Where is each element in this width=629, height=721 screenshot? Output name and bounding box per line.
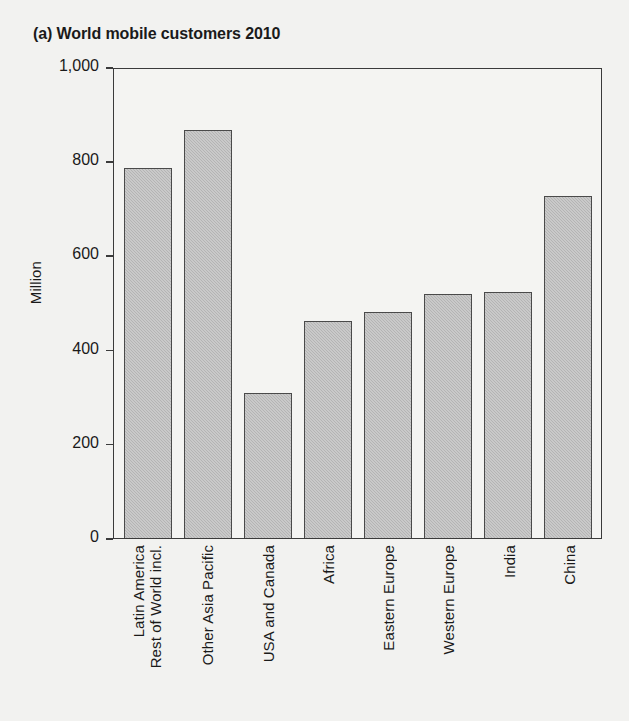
bar[interactable] bbox=[364, 312, 412, 538]
y-axis-tick-label: 200 bbox=[72, 434, 99, 452]
x-axis-tick-label: Other Asia Pacific bbox=[199, 545, 216, 665]
bar[interactable] bbox=[544, 196, 592, 538]
bar[interactable] bbox=[244, 393, 292, 538]
bar-slot bbox=[478, 69, 538, 538]
bar-slot bbox=[358, 69, 418, 538]
bar[interactable] bbox=[424, 294, 472, 538]
bar[interactable] bbox=[304, 321, 352, 538]
x-axis-label-slot: Africa bbox=[298, 545, 358, 721]
y-axis-tick-label: 800 bbox=[72, 151, 99, 169]
y-axis-tick-mark bbox=[106, 350, 113, 352]
bar-slot bbox=[118, 69, 178, 538]
x-axis-tick-label: China bbox=[560, 545, 577, 585]
x-axis-tick-label-line: Eastern Europe bbox=[380, 545, 397, 651]
figure-container: (a) World mobile customers 2010 Million … bbox=[0, 0, 629, 721]
y-axis-tick-mark bbox=[106, 161, 113, 163]
bar[interactable] bbox=[484, 292, 532, 538]
x-axis-tick-label: India bbox=[500, 545, 517, 578]
y-axis-tick-mark bbox=[106, 67, 113, 69]
bar-slot bbox=[538, 69, 598, 538]
x-axis-label-slot: Rest of World incl.Latin America bbox=[117, 545, 177, 721]
x-axis-label-slot: Other Asia Pacific bbox=[177, 545, 237, 721]
plot-area bbox=[113, 68, 602, 539]
x-axis-label-slot: China bbox=[539, 545, 599, 721]
x-axis-tick-label-line: Western Europe bbox=[440, 545, 457, 655]
y-axis: 02004006008001,000 bbox=[0, 0, 113, 721]
y-axis-tick-label: 1,000 bbox=[59, 57, 99, 75]
x-axis-tick-label: USA and Canada bbox=[259, 545, 276, 662]
bar-slot bbox=[298, 69, 358, 538]
x-axis-tick-label-line: Africa bbox=[319, 545, 336, 584]
bars-layer bbox=[114, 69, 601, 538]
y-axis-tick-mark bbox=[106, 444, 113, 446]
x-axis-tick-label-line: Latin America bbox=[130, 545, 147, 668]
y-axis-tick-label: 600 bbox=[72, 245, 99, 263]
x-axis-tick-label: Africa bbox=[319, 545, 336, 584]
x-axis-tick-label: Eastern Europe bbox=[380, 545, 397, 651]
x-axis-label-slot: Eastern Europe bbox=[358, 545, 418, 721]
x-axis-tick-label-line: China bbox=[560, 545, 577, 585]
bar-slot bbox=[418, 69, 478, 538]
bar[interactable] bbox=[184, 130, 232, 538]
x-axis-tick-label-line: Other Asia Pacific bbox=[199, 545, 216, 665]
bar-slot bbox=[178, 69, 238, 538]
x-axis-label-slot: Western Europe bbox=[418, 545, 478, 721]
x-axis-tick-label: Western Europe bbox=[440, 545, 457, 655]
bar-slot bbox=[238, 69, 298, 538]
x-axis-label-slot: USA and Canada bbox=[238, 545, 298, 721]
bar[interactable] bbox=[124, 168, 172, 539]
x-axis-tick-label: Rest of World incl.Latin America bbox=[130, 545, 164, 668]
x-axis-label-slot: India bbox=[479, 545, 539, 721]
y-axis-tick-label: 400 bbox=[72, 340, 99, 358]
y-axis-tick-label: 0 bbox=[90, 528, 99, 546]
y-axis-title: Million bbox=[27, 261, 49, 304]
x-axis-tick-label-line: India bbox=[500, 545, 517, 578]
y-axis-tick-mark bbox=[106, 255, 113, 257]
y-axis-tick-mark bbox=[106, 538, 113, 540]
x-axis-tick-label-line: USA and Canada bbox=[259, 545, 276, 662]
x-axis-tick-label-line: Rest of World incl. bbox=[147, 545, 164, 668]
chart-title: (a) World mobile customers 2010 bbox=[33, 25, 280, 43]
x-axis: Rest of World incl.Latin AmericaOther As… bbox=[113, 545, 602, 721]
